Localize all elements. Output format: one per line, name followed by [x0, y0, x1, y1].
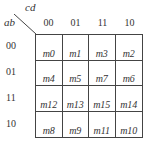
kmap-cell: m15 — [89, 86, 116, 112]
kmap-cell: m9 — [63, 112, 90, 138]
minterm-label: m11 — [89, 125, 115, 136]
col-header: 11 — [89, 17, 116, 28]
kmap-cell: m7 — [89, 61, 116, 87]
row-header: 11 — [6, 92, 24, 103]
minterm-label: m3 — [89, 48, 115, 59]
kmap-cell: m8 — [36, 112, 63, 138]
kmap-cell: m0 — [36, 35, 63, 61]
minterm-label: m15 — [89, 99, 115, 110]
minterm-label: m9 — [63, 125, 89, 136]
row-header: 01 — [6, 66, 24, 77]
col-header: 10 — [116, 17, 143, 28]
minterm-label: m10 — [116, 125, 143, 136]
minterm-label: m1 — [63, 48, 89, 59]
kmap-cell: m3 — [89, 35, 116, 61]
minterm-label: m5 — [63, 73, 89, 84]
minterm-label: m12 — [36, 99, 62, 110]
minterm-label: m6 — [116, 73, 143, 84]
corner-divider-line — [14, 14, 36, 36]
kmap-cell: m10 — [116, 112, 143, 138]
minterm-label: m14 — [116, 99, 143, 110]
minterm-label: m8 — [36, 125, 62, 136]
minterm-label: m2 — [116, 48, 143, 59]
col-variable-label: cd — [25, 1, 35, 13]
kmap-cell: m14 — [116, 86, 143, 112]
kmap-cell: m11 — [89, 112, 116, 138]
kmap-cell: m2 — [116, 35, 143, 61]
kmap-cell: m1 — [63, 35, 90, 61]
col-header: 01 — [62, 17, 89, 28]
minterm-label: m13 — [63, 99, 89, 110]
kmap-cell: m5 — [63, 61, 90, 87]
minterm-label: m4 — [36, 73, 62, 84]
col-header: 00 — [35, 17, 62, 28]
kmap-cell: m6 — [116, 61, 143, 87]
minterm-label: m0 — [36, 48, 62, 59]
row-variable-label: ab — [4, 16, 15, 28]
row-header: 00 — [6, 40, 24, 51]
kmap-cell: m13 — [63, 86, 90, 112]
row-header: 10 — [6, 118, 24, 129]
kmap-grid: m0 m1 m3 m2 m4 m5 m7 m6 m12 m13 m15 m14 … — [35, 34, 143, 138]
kmap-cell: m12 — [36, 86, 63, 112]
kmap-cell: m4 — [36, 61, 63, 87]
minterm-label: m7 — [89, 73, 115, 84]
